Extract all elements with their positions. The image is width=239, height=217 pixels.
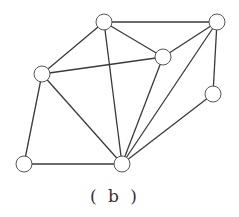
edge-top-mid-right (104, 22, 163, 57)
node-top-right (209, 14, 225, 30)
node-mid-right (155, 49, 171, 65)
edge-left-bottom-left (24, 74, 42, 164)
node-left (34, 66, 50, 82)
node-bottom-left (16, 156, 32, 172)
edge-top-right-bottom-center (122, 22, 217, 164)
node-bottom-center (114, 156, 130, 172)
edge-top-right-right (213, 22, 217, 94)
figure-caption: ( b ) (0, 186, 230, 206)
node-right (205, 86, 221, 102)
edges (24, 22, 217, 164)
edge-left-bottom-center (42, 74, 122, 164)
graph-diagram (0, 0, 239, 217)
edge-top-right-mid-right (163, 22, 217, 57)
node-top (96, 14, 112, 30)
edge-top-bottom-center (104, 22, 122, 164)
